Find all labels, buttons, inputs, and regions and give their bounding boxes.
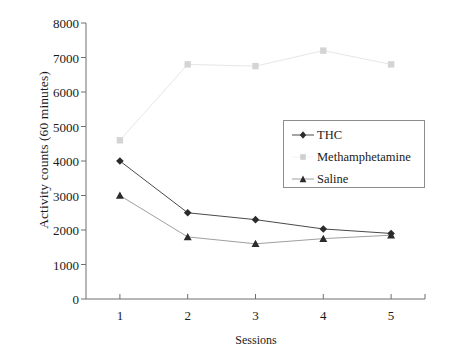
y-tick-label: 8000: [23, 17, 79, 30]
legend-label-saline: Saline: [317, 173, 348, 186]
x-tick-label: 4: [308, 309, 338, 322]
legend-item-saline: Saline: [290, 169, 348, 189]
x-axis-title-text: Sessions: [235, 333, 276, 347]
x-tick-label: 2: [173, 309, 203, 322]
y-tick-label: 4000: [23, 155, 79, 168]
y-tick-label: 6000: [23, 86, 79, 99]
diamond-marker-icon: [290, 128, 316, 142]
chart-legend: THC Methamphetamine Saline: [283, 120, 425, 188]
x-tick-label: 1: [105, 309, 135, 322]
legend-item-methamphetamine: Methamphetamine: [290, 147, 411, 167]
y-tick-label: 2000: [23, 224, 79, 237]
x-tick-label: 5: [376, 309, 406, 322]
triangle-marker-icon: [290, 172, 316, 186]
square-marker-icon: [290, 150, 316, 164]
y-tick-label: 5000: [23, 121, 79, 134]
legend-item-thc: THC: [290, 125, 342, 145]
y-tick-label: 1000: [23, 259, 79, 272]
y-tick-label: 7000: [23, 52, 79, 65]
x-tick-label: 3: [241, 309, 271, 322]
legend-label-thc: THC: [317, 129, 342, 142]
legend-label-methamphetamine: Methamphetamine: [317, 151, 411, 164]
y-tick-label: 0: [23, 293, 79, 306]
x-axis-title: Sessions: [86, 330, 426, 348]
y-tick-label: 3000: [23, 190, 79, 203]
activity-counts-line-chart: Activity counts (60 minutes) Sessions 01…: [0, 0, 458, 360]
